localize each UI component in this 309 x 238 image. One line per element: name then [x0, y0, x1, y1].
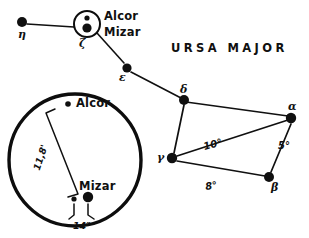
ursa-major-diagram: η ζ ε δ γ β α Alcor Mizar URSA MAJOR 10°… [0, 0, 309, 238]
angle-label-beta-alpha: 5° [278, 141, 290, 151]
star-label-gamma: γ [157, 152, 164, 163]
zeta-inset-label-mizar: Mizar [104, 27, 141, 39]
line-gamma-beta [177, 161, 265, 176]
star-label-eta: η [18, 29, 26, 40]
star-label-epsilon: ε [119, 72, 126, 83]
line-gamma-alpha [177, 120, 288, 156]
star-label-zeta: ζ [79, 38, 86, 49]
angle-label-gamma-beta: 8° [205, 180, 218, 192]
star-eta [17, 17, 27, 27]
zeta-inset-mizar-dot [82, 23, 91, 32]
inset-mizar-primary-dot [83, 192, 93, 202]
diagram-canvas [0, 0, 309, 238]
zeta-inset-group [74, 11, 100, 37]
figure-title: URSA MAJOR [171, 43, 288, 55]
star-gamma [167, 153, 177, 163]
star-alpha [286, 113, 296, 123]
line-delta-gamma [174, 105, 184, 153]
line-eta-zeta [27, 24, 74, 27]
line-delta-alpha [186, 102, 288, 116]
bowl-lines [174, 102, 291, 176]
separation-label-mizar-pair: 14″ [73, 221, 90, 231]
star-delta [179, 95, 189, 105]
star-label-beta: β [271, 182, 278, 193]
magnified-inset-group [9, 94, 141, 226]
star-label-delta: δ [180, 84, 187, 95]
zeta-inset-label-alcor: Alcor [104, 11, 138, 23]
inset-mizar-companion-dot [71, 196, 76, 201]
inset-alcor-dot [65, 101, 71, 107]
inset-label-alcor: Alcor [76, 98, 110, 110]
magnified-inset-circle [9, 94, 141, 226]
zeta-inset-alcor-dot [84, 15, 89, 20]
star-label-alpha: α [288, 101, 296, 112]
inset-label-mizar: Mizar [79, 181, 116, 193]
line-epsilon-delta [131, 72, 181, 98]
